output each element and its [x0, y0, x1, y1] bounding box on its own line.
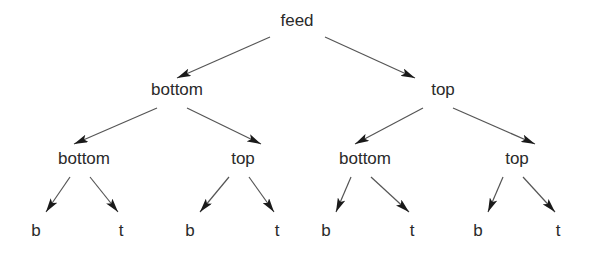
edge-arrow-root-L — [177, 37, 270, 78]
edge-arrow-L-LL — [74, 108, 157, 144]
edge-arrow-RL-RLL — [336, 177, 351, 212]
edge-arrow-LR-LRR — [249, 177, 274, 212]
node-label-L: bottom — [151, 80, 203, 99]
node-label-LRR: t — [275, 221, 280, 240]
node-label-RRL: b — [473, 221, 482, 240]
node-label-LR: top — [231, 149, 255, 168]
tree-svg: feedbottomtopbottomtopbottomtopbtbtbtbt — [0, 0, 589, 255]
node-label-RLL: b — [321, 221, 330, 240]
node-label-RLR: t — [410, 221, 415, 240]
node-label-root: feed — [280, 11, 313, 30]
edge-arrow-R-RR — [453, 108, 535, 144]
node-label-LLR: t — [119, 221, 124, 240]
edge-arrow-RR-RRR — [523, 177, 555, 212]
node-label-LLL: b — [31, 221, 40, 240]
edge-arrow-L-LR — [187, 108, 261, 144]
edge-arrow-root-R — [325, 37, 415, 78]
edge-arrow-LL-LLL — [46, 177, 70, 212]
edge-arrow-LR-LRL — [200, 177, 229, 212]
edge-arrow-LL-LLR — [90, 177, 118, 212]
node-label-RL: bottom — [339, 149, 391, 168]
edge-arrow-R-RL — [355, 108, 423, 144]
node-label-LRL: b — [185, 221, 194, 240]
node-label-RRR: t — [556, 221, 561, 240]
node-label-R: top — [431, 80, 455, 99]
node-label-RR: top — [505, 149, 529, 168]
edge-arrow-RL-RLR — [371, 177, 409, 212]
tree-diagram: feedbottomtopbottomtopbottomtopbtbtbtbt — [0, 0, 589, 255]
edge-arrow-RR-RRL — [488, 177, 503, 212]
node-label-LL: bottom — [58, 149, 110, 168]
